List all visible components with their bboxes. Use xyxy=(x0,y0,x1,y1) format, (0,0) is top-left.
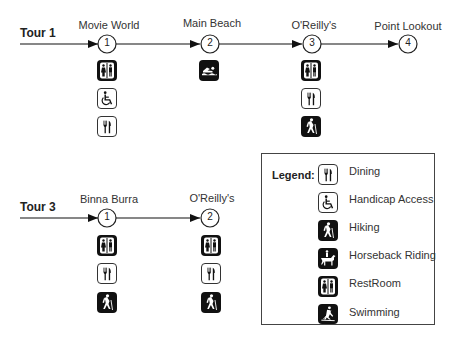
stop-number: 3 xyxy=(307,37,317,48)
hiker-icon xyxy=(97,292,117,313)
dining-icon xyxy=(97,263,117,284)
tour-1-label: Tour 1 xyxy=(20,26,56,40)
stop-number: 1 xyxy=(102,211,112,222)
legend-label-dining: Dining xyxy=(349,165,380,177)
legend-label-restroom: RestRoom xyxy=(349,277,401,289)
restroom-icon xyxy=(97,235,117,256)
hiker-icon xyxy=(318,220,338,241)
stop-number: 2 xyxy=(205,211,215,222)
horse-rider-icon xyxy=(318,248,338,269)
stop-name: Binna Burra xyxy=(80,193,138,205)
stop-name: Main Beach xyxy=(183,17,241,29)
legend: Legend: Dining Handicap Access Hiking Ho… xyxy=(261,153,435,325)
hiker-icon xyxy=(201,292,221,313)
wheelchair-icon xyxy=(97,88,117,109)
swimmer-icon xyxy=(318,304,338,324)
stop-number: 2 xyxy=(205,37,215,48)
restroom-icon xyxy=(301,60,321,81)
swimmer-icon xyxy=(199,60,219,81)
wheelchair-icon xyxy=(318,192,338,213)
restroom-icon xyxy=(318,276,338,297)
stop-name: O'Reilly's xyxy=(291,19,336,31)
dining-icon xyxy=(301,88,321,109)
legend-label-swimming: Swimming xyxy=(349,306,400,318)
legend-label-handicap: Handicap Access xyxy=(349,193,433,205)
legend-label-hiking: Hiking xyxy=(349,221,380,233)
restroom-icon xyxy=(201,235,221,256)
stop-name: Point Lookout xyxy=(374,20,441,32)
stop-name: Movie World xyxy=(79,19,140,31)
dining-icon xyxy=(97,116,117,137)
hiker-icon xyxy=(301,116,321,137)
restroom-icon xyxy=(97,60,117,81)
stop-name: O'Reilly's xyxy=(189,192,234,204)
stop-number: 1 xyxy=(102,37,112,48)
dining-icon xyxy=(201,263,221,284)
tour-1-route xyxy=(20,35,417,53)
tour-3-label: Tour 3 xyxy=(20,200,56,214)
legend-title: Legend: xyxy=(272,169,315,181)
dining-icon xyxy=(318,164,338,185)
stop-number: 4 xyxy=(403,37,413,48)
legend-label-horseback: Horseback Riding xyxy=(349,249,436,261)
